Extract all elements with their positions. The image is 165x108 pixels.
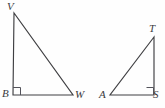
vertex-label-a: A — [99, 89, 106, 100]
vertex-label-t: T — [149, 23, 155, 34]
triangle-VBW-outline — [13, 13, 73, 95]
vertex-label-b: B — [2, 88, 9, 99]
vertex-label-s: S — [153, 89, 159, 100]
vertex-label-v: V — [7, 1, 14, 12]
vertex-label-w: W — [75, 89, 84, 100]
geometry-figure: V B W T A S — [0, 0, 165, 108]
triangle-TAS — [110, 37, 154, 95]
right-angle-marker-B — [13, 88, 21, 96]
triangle-VBW — [13, 13, 73, 95]
triangle-TAS-outline — [110, 37, 154, 95]
